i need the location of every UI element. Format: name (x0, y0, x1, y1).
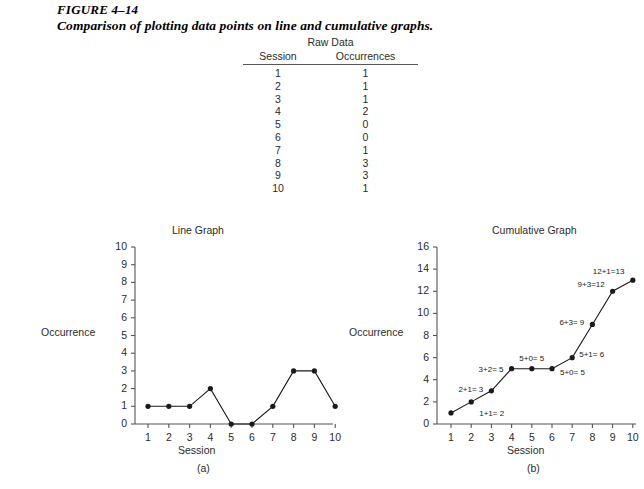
line-graph-y-tick-label: 2 (101, 382, 127, 394)
line-graph-panel: Line Graph Occurrence Session (a) 012345… (0, 0, 340, 489)
line-graph-y-tick-label: 8 (101, 275, 127, 287)
line-graph-y-tick-label: 3 (101, 364, 127, 376)
cumulative-graph-point-annotation: 3+2= 5 (479, 365, 504, 374)
cumulative-graph-point-annotation: 1+1= 2 (479, 409, 504, 418)
cumulative-graph-y-tick-label: 8 (403, 329, 429, 341)
line-graph-y-tick-label: 6 (101, 311, 127, 323)
cumulative-graph-y-tick-label: 14 (403, 262, 429, 274)
line-graph-plot (0, 0, 340, 489)
line-graph-y-tick-label: 10 (101, 240, 127, 252)
cumulative-graph-y-tick-label: 10 (403, 306, 429, 318)
cumulative-graph-point-annotation: 5+1= 6 (579, 350, 604, 359)
cumulative-graph-point-annotation: 5+0= 5 (519, 354, 544, 363)
cumulative-graph-point-annotation: 6+3= 9 (559, 318, 584, 327)
cumulative-graph-point-annotation: 9+3=12 (578, 280, 605, 289)
line-graph-y-tick-label: 1 (101, 399, 127, 411)
line-graph-y-tick-label: 5 (101, 329, 127, 341)
cumulative-graph-point-annotation: 5+0= 5 (560, 368, 585, 377)
cumulative-graph-y-tick-label: 0 (403, 417, 429, 429)
line-graph-y-tick-label: 4 (101, 346, 127, 358)
line-graph-y-tick-label: 7 (101, 293, 127, 305)
cumulative-graph-point-annotation: 2+1= 3 (458, 385, 483, 394)
cumulative-graph-y-tick-label: 6 (403, 351, 429, 363)
line-graph-y-tick-label: 0 (101, 417, 127, 429)
cumulative-graph-point-annotation: 12+1=13 (593, 267, 625, 276)
cumulative-graph-y-tick-label: 4 (403, 373, 429, 385)
cumulative-graph-x-tick-label: 10 (621, 431, 644, 443)
cumulative-graph-y-tick-label: 2 (403, 395, 429, 407)
cumulative-graph-panel: Cumulative Graph Occurrence Session (b) … (340, 0, 644, 489)
cumulative-graph-y-tick-label: 16 (403, 240, 429, 252)
cumulative-graph-y-tick-label: 12 (403, 284, 429, 296)
line-graph-y-tick-label: 9 (101, 258, 127, 270)
